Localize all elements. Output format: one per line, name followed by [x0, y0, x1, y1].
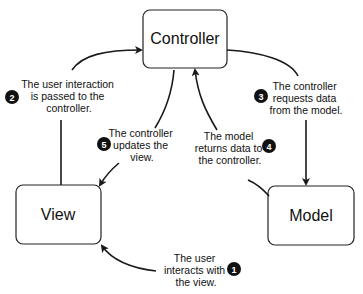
edge-view-to-controller-arrow [72, 50, 141, 70]
svg-text:2: 2 [9, 93, 14, 103]
controller-label: Controller [150, 30, 220, 47]
svg-text:3: 3 [258, 92, 263, 102]
step-5: 5 The controller updates the view. [97, 127, 176, 163]
edge-model-to-controller [248, 180, 269, 196]
edge-user-to-view [102, 246, 156, 271]
edge-model-to-controller-arrow [195, 70, 217, 130]
step-3: 3 The controller requests data from the … [254, 80, 342, 116]
svg-text:4: 4 [266, 142, 271, 152]
svg-text:5: 5 [101, 140, 106, 150]
view-label: View [41, 206, 76, 223]
step-1-text: The user interacts with the view. [164, 252, 228, 288]
model-node: Model [268, 186, 354, 245]
edge-controller-to-view-arrow [100, 163, 119, 185]
edge-controller-to-model [227, 50, 298, 76]
step-5-text: The controller updates the view. [108, 127, 175, 163]
controller-node: Controller [143, 10, 227, 68]
step-2: 2 The user interaction is passed to the … [5, 78, 117, 114]
step-4: 4 The model returns data to the controll… [195, 130, 276, 166]
edge-controller-to-view [155, 70, 174, 128]
model-label: Model [289, 207, 333, 224]
step-3-text: The controller requests data from the mo… [270, 80, 343, 116]
svg-text:1: 1 [231, 265, 236, 275]
step-4-text: The model returns data to the controller… [195, 130, 266, 166]
view-node: View [16, 185, 101, 244]
mvc-diagram: Controller View Model 2 The user interac… [0, 0, 363, 294]
step-2-text: The user interaction is passed to the co… [21, 78, 117, 114]
step-1: 1 The user interacts with the view. [164, 252, 241, 288]
